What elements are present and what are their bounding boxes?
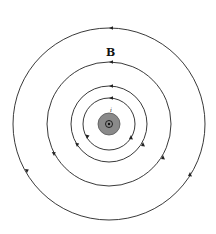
current-label: i [110,106,112,113]
field-label: B [106,46,115,59]
arrow-icon [109,60,113,63]
arrow-icon [109,84,113,87]
wire [98,113,120,135]
magnetic-field-diagram: B i [0,0,216,234]
arrow-icon [109,26,113,29]
arrow-icon [109,96,113,99]
current-dot-icon [108,123,110,125]
